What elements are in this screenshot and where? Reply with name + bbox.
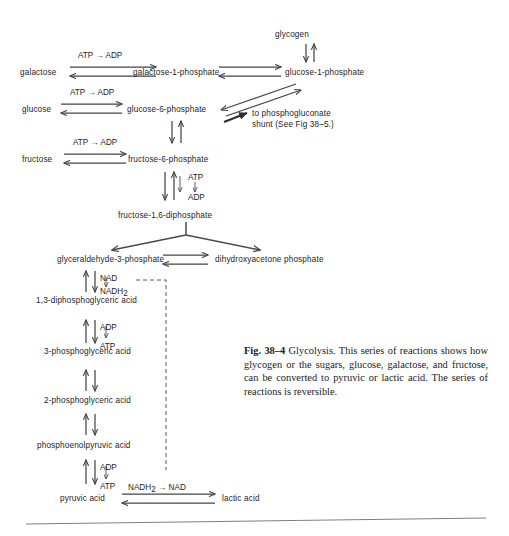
reaction-glycogen-glucose1p: [306, 44, 314, 62]
label-glucose-6-phosphate: glucose-6-phosphate: [127, 105, 207, 114]
label-shunt-line-1: to phosphogluconate: [252, 109, 331, 118]
label-fructose-1-6-diphosphate: fructose-1,6-diphosphate: [118, 211, 212, 220]
label-fructose: fructose: [22, 155, 53, 164]
label-atp-adp-fructokinase: ATP → ADP: [73, 138, 118, 147]
label-atp-pfk: ATP: [188, 173, 204, 182]
page-divider-rule: [26, 518, 486, 524]
label-galactose: galactose: [20, 68, 57, 77]
label-nadh2-to-nad: NADH2 → NAD: [128, 483, 186, 494]
figure-caption: Fig. 38–4 Glycolysis. This series of rea…: [244, 344, 488, 398]
label-galactose-1-phosphate: galactose-1-phosphate: [133, 68, 220, 77]
label-lactic-acid: lactic acid: [222, 494, 260, 503]
label-glycogen: glycogen: [275, 30, 309, 39]
label-atp-pgk: ATP: [100, 342, 116, 351]
label-pyruvic-acid: pyruvic acid: [60, 494, 105, 503]
arrow-phosphogluconate-shunt: [224, 113, 247, 122]
label-dihydroxyacetone-phosphate: dihydroxyacetone phosphate: [215, 255, 324, 264]
label-1-3-diphosphoglyceric-acid: 1,3-diphosphoglyceric acid: [36, 296, 137, 305]
label-glyceraldehyde-3-phosphate: glyceraldehyde-3-phosphate: [57, 255, 165, 264]
label-shunt-line-2: shunt (See Fig 38–5.): [252, 120, 334, 129]
label-adp-pfk: ADP: [188, 193, 205, 202]
label-nad: NAD: [100, 274, 117, 283]
label-glucose: glucose: [22, 105, 52, 114]
label-3-phosphoglyceric-acid: 3-phosphoglyceric acid: [44, 347, 131, 356]
reaction-galactose1p-glucose1p: [219, 67, 281, 76]
branch-fructose16dp-split: [112, 222, 260, 250]
glycolysis-pathway-diagram: glycogen galactose galactose-1-phosphate…: [0, 0, 509, 536]
reaction-fructose-fructose6p: [64, 154, 126, 163]
figure-number-label: Fig. 38–4: [244, 345, 289, 356]
reaction-3pg-2pg: [86, 370, 95, 391]
label-2-phosphoglyceric-acid: 2-phosphoglyceric acid: [44, 396, 131, 405]
figure-glycolysis: glycogen galactose galactose-1-phosphate…: [0, 0, 509, 536]
reaction-g3p-dhap: [163, 255, 208, 264]
label-atp-adp-galactokinase: ATP → ADP: [78, 51, 123, 60]
label-atp-pk: ATP: [100, 482, 116, 491]
label-adp-pgk: ADP: [100, 323, 117, 332]
reaction-glucose6p-fructose6p: [172, 121, 181, 143]
label-glucose-1-phosphate: glucose-1-phosphate: [285, 68, 365, 77]
label-atp-adp-hexokinase: ATP → ADP: [70, 88, 115, 97]
reaction-glucose-glucose6p: [61, 104, 122, 113]
label-adp-pk: ADP: [100, 463, 117, 472]
label-fructose-6-phosphate: fructose-6-phosphate: [128, 155, 209, 164]
reaction-2pg-pep: [86, 414, 95, 435]
reaction-pyruvate-lactate: [122, 494, 215, 503]
dashed-nadh2-link: [136, 280, 166, 470]
label-phosphoenolpyruvic-acid: phosphoenolpyruvic acid: [37, 441, 131, 450]
